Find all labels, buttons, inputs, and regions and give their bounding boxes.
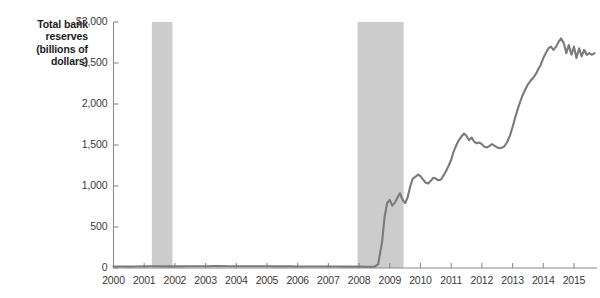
x-tick-label-2014: 2014 [526, 274, 560, 286]
recession-band-recession-2008 [358, 22, 404, 268]
x-tick-label-2008: 2008 [342, 274, 376, 286]
y-tick-label-2500: 2,500 [50, 56, 108, 68]
y-axis-group [114, 22, 119, 268]
x-tick-label-2010: 2010 [403, 274, 437, 286]
recession-band-recession-2001 [152, 22, 173, 268]
x-tick-label-2007: 2007 [311, 274, 345, 286]
y-tick-label-2000: 2,000 [50, 97, 108, 109]
recession-bands-group [152, 22, 404, 268]
x-tick-label-2002: 2002 [158, 274, 192, 286]
x-tick-label-2000: 2000 [97, 274, 131, 286]
x-tick-label-2011: 2011 [434, 274, 468, 286]
x-tick-label-2004: 2004 [219, 274, 253, 286]
x-tick-label-2006: 2006 [281, 274, 315, 286]
x-tick-label-2012: 2012 [465, 274, 499, 286]
y-tick-label-0: 0 [50, 261, 108, 273]
y-tick-label-500: 500 [50, 220, 108, 232]
y-axis-ticks [114, 22, 119, 268]
x-tick-label-2001: 2001 [127, 274, 161, 286]
y-tick-label-3000: $3,000 [50, 15, 108, 27]
x-tick-label-2005: 2005 [250, 274, 284, 286]
x-tick-label-2013: 2013 [496, 274, 530, 286]
data-series-line [114, 38, 595, 266]
y-tick-label-1000: 1,000 [50, 179, 108, 191]
x-tick-label-2003: 2003 [189, 274, 223, 286]
x-tick-label-2009: 2009 [373, 274, 407, 286]
chart-figure: Total bank reserves (billions of dollars… [0, 0, 600, 298]
x-tick-label-2015: 2015 [557, 274, 591, 286]
y-tick-label-1500: 1,500 [50, 138, 108, 150]
